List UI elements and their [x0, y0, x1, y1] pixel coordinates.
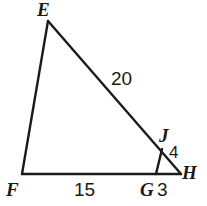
- measure-label-ej: 20: [111, 69, 132, 88]
- triangle-diagram-svg: [0, 0, 207, 206]
- measure-label-gh: 3: [157, 180, 168, 199]
- geometry-figure: E F G H J 20 15 3 4: [0, 0, 207, 206]
- vertex-label-h: H: [182, 163, 197, 182]
- segment-EF: [22, 21, 48, 174]
- vertex-label-j: J: [159, 126, 169, 145]
- vertex-label-g: G: [140, 180, 154, 199]
- measure-label-fg: 15: [74, 180, 95, 199]
- vertex-label-f: F: [6, 180, 19, 199]
- vertex-label-e: E: [37, 0, 50, 19]
- measure-label-jh: 4: [169, 144, 178, 161]
- segment-JG: [156, 149, 162, 174]
